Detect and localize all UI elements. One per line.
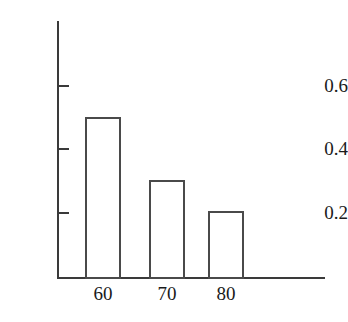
x-tick-label-2: 80 [203,283,249,304]
bar-60 [85,117,121,279]
bar-80 [208,211,244,279]
y-tick-label-2: 0.2 [302,203,348,222]
bar-70 [149,180,185,279]
histogram-chart: 0.6 0.4 0.2 60 70 80 [0,0,348,322]
x-tick-label-0: 60 [80,283,126,304]
y-tick-mark-0 [59,85,69,87]
y-tick-mark-1 [59,148,69,150]
y-tick-label-0: 0.6 [302,76,348,95]
x-tick-label-1: 70 [144,283,190,304]
y-tick-mark-2 [59,212,69,214]
y-axis-line [57,21,59,279]
y-tick-label-1: 0.4 [302,139,348,158]
